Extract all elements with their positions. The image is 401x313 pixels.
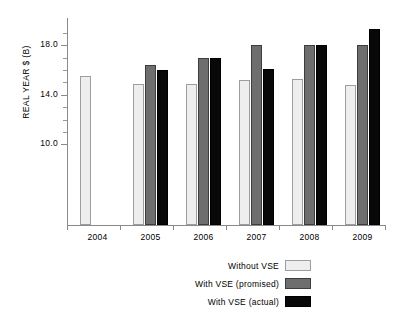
bar-chart: REAL YEAR $ (B) 18.014.010.0 20042005200… — [0, 0, 401, 313]
bar — [369, 29, 380, 225]
x-tick — [173, 225, 174, 230]
x-tick — [279, 225, 280, 230]
x-axis-label: 2004 — [68, 232, 128, 242]
legend-item-without-vse: Without VSE — [96, 258, 311, 273]
legend-label: Without VSE — [228, 261, 279, 271]
bar — [292, 79, 303, 225]
bar — [80, 76, 91, 225]
x-axis-label: 2006 — [174, 232, 234, 242]
bar — [345, 85, 356, 225]
chart-legend: Without VSE With VSE (promised) With VSE… — [96, 258, 311, 312]
plot-area — [67, 18, 385, 225]
legend-swatch-with-vse-actual — [285, 296, 311, 307]
x-tick — [67, 225, 68, 230]
bar-group — [292, 18, 327, 225]
bar-group — [133, 18, 168, 225]
x-axis-label: 2009 — [333, 232, 393, 242]
bar — [186, 84, 197, 225]
legend-item-with-vse-promised: With VSE (promised) — [96, 276, 311, 291]
x-tick — [120, 225, 121, 230]
bar-group — [239, 18, 274, 225]
x-tick — [385, 225, 386, 230]
legend-swatch-with-vse-promised — [285, 278, 311, 289]
bar — [357, 45, 368, 225]
bar — [304, 45, 315, 225]
x-axis-label: 2007 — [227, 232, 287, 242]
bar — [198, 58, 209, 225]
bar-group — [345, 18, 380, 225]
legend-swatch-without-vse — [285, 260, 311, 271]
bar — [239, 80, 250, 225]
bar — [157, 70, 168, 225]
bar — [145, 65, 156, 225]
bar — [263, 69, 274, 225]
x-tick — [226, 225, 227, 230]
legend-item-with-vse-actual: With VSE (actual) — [96, 294, 311, 309]
legend-label: With VSE (promised) — [195, 279, 279, 289]
y-tick-label: 18.0 — [12, 39, 58, 49]
x-axis-label: 2008 — [280, 232, 340, 242]
y-tick-label: 10.0 — [12, 138, 58, 148]
bar — [210, 58, 221, 225]
legend-label: With VSE (actual) — [208, 297, 279, 307]
y-tick-label: 14.0 — [12, 89, 58, 99]
bar — [316, 45, 327, 225]
bar — [251, 45, 262, 225]
bar — [133, 84, 144, 225]
bar-group — [80, 18, 115, 225]
x-tick — [332, 225, 333, 230]
x-axis-label: 2005 — [121, 232, 181, 242]
bar-group — [186, 18, 221, 225]
